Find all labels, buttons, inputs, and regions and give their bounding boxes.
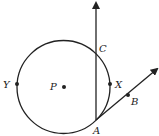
- point-x: [108, 82, 112, 86]
- point-y: [15, 82, 19, 86]
- label-a: A: [92, 125, 100, 136]
- label-c: C: [99, 43, 107, 54]
- label-x: X: [114, 79, 123, 90]
- labels-group: PYXCAB: [3, 43, 138, 136]
- points-group: [15, 82, 130, 97]
- geometry-diagram: PYXCAB: [0, 0, 159, 136]
- label-b: B: [130, 96, 138, 107]
- point-b: [126, 93, 130, 97]
- label-y: Y: [3, 79, 11, 90]
- point-p: [62, 85, 66, 89]
- label-p: P: [49, 81, 57, 92]
